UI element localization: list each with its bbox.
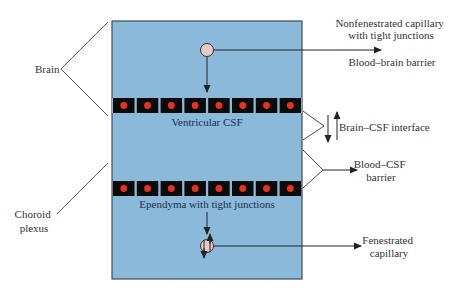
choroid-plexus-label: Choroid plexus [15, 208, 54, 234]
brain-bracket-line [61, 22, 108, 116]
ependymal-cell [113, 98, 135, 113]
epithelial-cell [208, 181, 230, 196]
choroid-plexus-pointer-line [57, 163, 108, 214]
ependymal-cell [208, 98, 230, 113]
epithelial-cell [113, 181, 135, 196]
epithelial-cell [280, 181, 302, 196]
ependyma-label: Ependyma with tight junctions [139, 198, 274, 210]
blood-csf-barrier-label: Blood–CSF barrier [354, 158, 409, 183]
upper-cell-row [112, 98, 302, 113]
blood-brain-barrier-label: Blood–brain barrier [348, 56, 435, 68]
blood-csf-bracket-line [303, 150, 323, 188]
epithelial-cell [137, 181, 159, 196]
brain-label: Brain [35, 63, 60, 75]
ependymal-cell [232, 98, 254, 113]
capillary-circle-icon [201, 44, 214, 57]
ventricular-csf-label: Ventricular CSF [171, 116, 242, 128]
nonfenestrated-capillary-label: Nonfenestrated capillary with tight junc… [335, 17, 446, 41]
ependymal-cell [161, 98, 183, 113]
ependymal-cell [137, 98, 159, 113]
ependymal-cell [280, 98, 302, 113]
blood-brain-csf-diagram: Brain Choroid plexus Nonfenestrated capi… [0, 0, 468, 290]
ependymal-cell [184, 98, 206, 113]
capillary-circle-icon [201, 240, 214, 253]
brain-csf-interface-label: Brain–CSF interface [339, 121, 430, 133]
epithelial-cell [256, 181, 277, 196]
brain-csf-bracket-line [303, 111, 324, 140]
epithelial-cell [232, 181, 254, 196]
fenestrated-capillary-label: Fenestrated capillary [362, 234, 415, 259]
epithelial-cell [184, 181, 206, 196]
ependymal-cell [256, 98, 277, 113]
epithelial-cell [161, 181, 183, 196]
